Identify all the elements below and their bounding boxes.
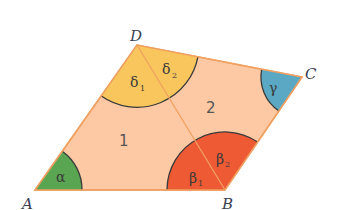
angle-label-alpha: α bbox=[56, 169, 66, 185]
angle-label-gamma: γ bbox=[269, 80, 277, 96]
parallelogram-diagram: A B C D 1 2 α β 1 β 2 γ δ 1 δ 2 bbox=[0, 0, 345, 210]
angle-label-delta-2: δ bbox=[162, 61, 170, 77]
angle-label-beta-2: β bbox=[216, 151, 224, 167]
region-label-1: 1 bbox=[119, 132, 129, 150]
vertex-label-b: B bbox=[221, 195, 233, 210]
region-label-2: 2 bbox=[206, 99, 216, 117]
angle-sub-delta-2: 2 bbox=[172, 71, 177, 80]
angle-sub-delta-1: 1 bbox=[140, 84, 145, 93]
vertex-label-d: D bbox=[129, 27, 142, 45]
angle-label-delta-1: δ bbox=[130, 74, 138, 90]
vertex-label-c: C bbox=[305, 65, 317, 83]
angle-sub-beta-2: 2 bbox=[225, 160, 230, 169]
vertex-label-a: A bbox=[20, 195, 33, 210]
angle-sub-beta-1: 1 bbox=[198, 179, 203, 188]
angle-label-beta-1: β bbox=[189, 170, 197, 186]
